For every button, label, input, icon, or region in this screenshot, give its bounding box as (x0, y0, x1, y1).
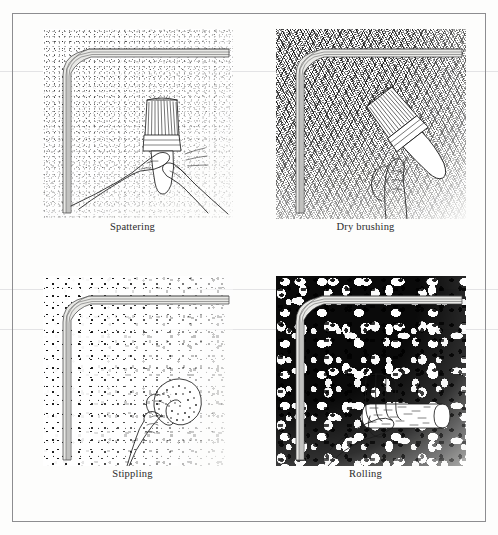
texture-stipple-fine (43, 276, 233, 466)
panel-caption-stippling: Stippling (112, 468, 152, 479)
panel-artwork-rolling (266, 270, 466, 466)
illustration-page: Spattering (0, 0, 498, 535)
panel-artwork-spattering (33, 23, 233, 219)
panel-caption-spattering: Spattering (110, 221, 155, 232)
texture-roll-fine (276, 276, 466, 466)
wall-surface (276, 29, 466, 219)
wall-surface (276, 276, 466, 466)
wall-surface (43, 29, 233, 219)
panel-artwork-dry-brushing (266, 23, 466, 219)
panel-caption-dry-brushing: Dry brushing (336, 221, 394, 232)
panel-rolling: Rolling (249, 270, 482, 517)
panel-artwork-stippling (33, 270, 233, 466)
wall-surface (43, 276, 233, 466)
figure-grid: Spattering (12, 13, 486, 522)
texture-spatter-fine (43, 29, 233, 219)
panel-dry-brushing: Dry brushing (249, 23, 482, 270)
texture-crosshatch (276, 29, 466, 219)
panel-caption-rolling: Rolling (349, 468, 382, 479)
panel-stippling: Stippling (16, 270, 249, 517)
panel-spattering: Spattering (16, 23, 249, 270)
